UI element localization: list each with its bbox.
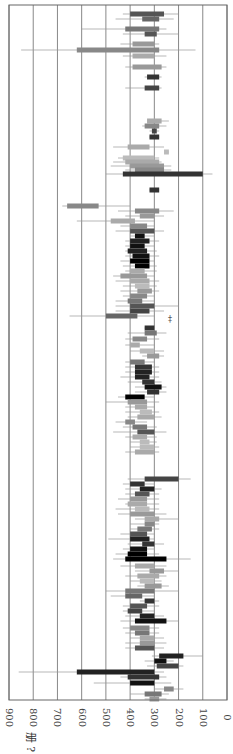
tick-label: 500 <box>100 708 111 728</box>
interval-bar <box>125 557 166 562</box>
interval-bar <box>140 579 155 584</box>
interval-bar <box>130 482 145 487</box>
interval-bar <box>130 229 154 234</box>
interval-bar <box>145 385 162 390</box>
interval-bar <box>135 507 150 512</box>
interval-bar <box>145 522 155 527</box>
interval-bar <box>130 497 147 502</box>
interval-bar <box>149 188 159 193</box>
interval-bar <box>140 614 155 619</box>
interval-bar <box>128 145 150 150</box>
interval-bar <box>147 119 162 124</box>
interval-bar <box>145 331 157 336</box>
interval-bar <box>142 380 154 385</box>
interval-bar <box>140 349 155 354</box>
interval-bar <box>133 42 155 47</box>
interval-bar <box>140 410 152 415</box>
interval-bar <box>142 542 154 547</box>
interval-bar <box>125 27 159 32</box>
interval-bar <box>159 654 183 659</box>
interval-bar <box>130 537 149 542</box>
interval-bar <box>140 445 155 450</box>
interval-bar <box>140 487 155 492</box>
tick-label: 400 <box>125 708 136 728</box>
interval-bar <box>145 692 162 697</box>
interval-bar <box>152 129 157 134</box>
interval-bar <box>149 697 159 702</box>
interval-bar <box>135 375 150 380</box>
interval-bar <box>135 619 166 624</box>
interval-bar <box>145 86 160 91</box>
interval-bar <box>77 670 155 675</box>
interval-bar <box>145 599 155 604</box>
interval-bar <box>142 17 159 22</box>
interval-bar <box>140 440 150 445</box>
interval-bar <box>130 547 147 552</box>
interval-bar <box>135 405 147 410</box>
bars <box>19 12 213 702</box>
tick-label: 0 <box>222 708 233 728</box>
interval-bar <box>135 284 150 289</box>
interval-bar <box>67 204 98 209</box>
interval-bar <box>145 584 162 589</box>
tick-label: 800 <box>28 708 39 728</box>
interval-bar <box>130 512 154 517</box>
interval-bar <box>149 135 159 140</box>
interval-bar <box>147 75 159 80</box>
interval-bar <box>128 249 147 254</box>
interval-bar <box>145 326 155 331</box>
interval-bar <box>130 309 149 314</box>
tick-label: 900 <box>4 708 15 728</box>
interval-bar <box>135 234 145 239</box>
tick-label: 300 <box>149 708 160 728</box>
interval-bar <box>140 641 155 646</box>
interval-bar <box>135 631 150 636</box>
tick-label: 100 <box>197 708 208 728</box>
interval-bar <box>130 304 154 309</box>
interval-bar <box>147 354 159 359</box>
interval-bar <box>133 425 148 430</box>
interval-bar <box>125 594 142 599</box>
interval-bar <box>130 604 147 609</box>
interval-bar <box>137 415 154 420</box>
interval-bar <box>130 12 164 17</box>
interval-bar <box>120 274 147 279</box>
interval-bar <box>128 299 143 304</box>
interval-bar <box>133 254 150 259</box>
interval-bar <box>135 264 150 269</box>
interval-bar <box>140 636 155 641</box>
interval-bar <box>125 589 154 594</box>
interval-bar <box>135 646 154 651</box>
interval-bar <box>130 244 145 249</box>
interval-bar <box>106 314 137 319</box>
interval-bar <box>154 659 166 664</box>
interval-bar <box>130 343 140 348</box>
interval-bar <box>145 477 179 482</box>
interval-chart: ‡ <box>0 0 233 754</box>
tick-label: 600 <box>76 708 87 728</box>
interval-bar <box>137 527 152 532</box>
axis-label: 册 ? <box>24 732 40 752</box>
interval-bar <box>157 664 179 669</box>
interval-bar <box>130 279 149 284</box>
interval-bar <box>123 172 203 177</box>
interval-bar <box>140 214 155 219</box>
interval-bar <box>130 259 149 264</box>
interval-bar <box>128 552 147 557</box>
tick-label: 200 <box>173 708 184 728</box>
interval-bar <box>164 687 174 692</box>
annotation-marker: ‡ <box>168 315 172 324</box>
interval-bar <box>145 517 160 522</box>
interval-bar <box>130 360 145 365</box>
interval-bar <box>130 532 147 537</box>
interval-bar <box>133 435 148 440</box>
interval-bar <box>133 54 155 59</box>
interval-bar <box>130 626 149 631</box>
interval-bar <box>130 239 149 244</box>
interval-bar <box>145 124 160 129</box>
interval-bar <box>135 564 154 569</box>
interval-bar <box>135 365 152 370</box>
interval-bar <box>137 574 159 579</box>
interval-bar <box>125 395 144 400</box>
interval-bar <box>137 289 152 294</box>
